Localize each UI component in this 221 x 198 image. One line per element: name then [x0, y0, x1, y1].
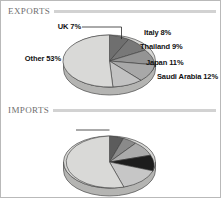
exports-chart-panel: EXPORTS UK 7% Italy 8% Thailand 9: [1, 1, 221, 100]
exports-label-other: Other 53%: [5, 54, 61, 63]
imports-chart-panel: IMPORTS Belgium-Luxembourg 5% Germany 5%…: [1, 100, 221, 198]
exports-pie-stage: [1, 1, 221, 100]
exports-label-japan: Japan 11%: [146, 58, 183, 67]
exports-label-thailand: Thailand 9%: [140, 42, 183, 51]
exports-pie-chart: [1, 1, 221, 100]
imports-pie-chart: [1, 100, 221, 198]
exports-label-italy: Italy 8%: [144, 28, 171, 37]
imports-pie-stage: [1, 100, 221, 198]
exports-label-uk: UK 7%: [33, 22, 81, 31]
exports-label-saudi-arabia: Saudi Arabia 12%: [136, 72, 218, 81]
